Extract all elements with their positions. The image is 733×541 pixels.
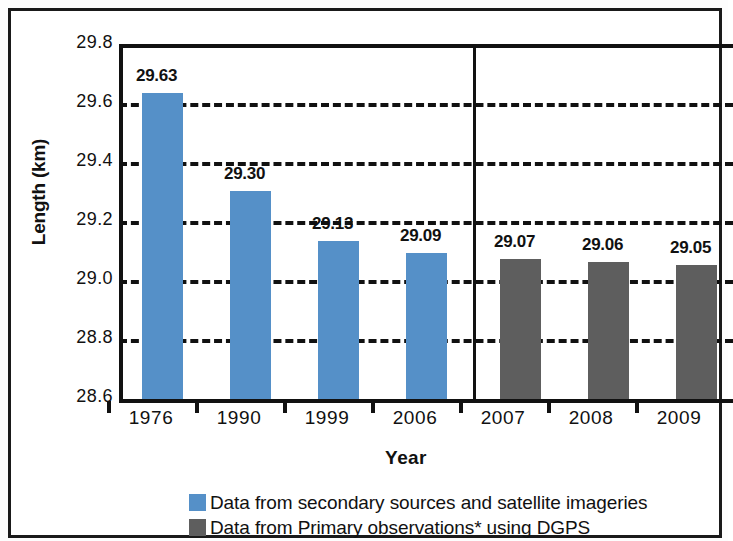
bar-value-2009: 29.05	[670, 238, 711, 258]
bar-value-1990: 29.30	[224, 164, 265, 184]
y-tick-label-29-8: 29.8	[76, 32, 113, 53]
bar-1976[interactable]	[142, 93, 183, 399]
x-tick-label-2008: 2008	[547, 407, 635, 429]
bar-value-1999: 29.13	[312, 214, 353, 234]
x-tick-label-1999: 1999	[283, 407, 371, 429]
bar-2009[interactable]	[676, 265, 717, 399]
x-tick-label-2009: 2009	[635, 407, 723, 429]
legend-item-secondary[interactable]: Data from secondary sources and satellit…	[189, 490, 647, 515]
chart-legend: Data from secondary sources and satellit…	[189, 490, 647, 540]
x-tick-label-1976: 1976	[107, 407, 195, 429]
bar-1999[interactable]	[318, 241, 359, 399]
bar-1990[interactable]	[230, 191, 271, 399]
group-divider-line	[473, 44, 476, 403]
bar-2007[interactable]	[500, 259, 541, 399]
bar-2008[interactable]	[588, 262, 629, 399]
x-tick-label-2007: 2007	[459, 407, 547, 429]
y-axis-line	[119, 44, 123, 401]
bar-value-2007: 29.07	[494, 232, 535, 252]
gridline-29-2	[119, 221, 733, 225]
bar-2006[interactable]	[406, 253, 447, 399]
figure-border: Length (km) 29.8 29.6 29.4 29.2 29.0 28.…	[8, 8, 722, 538]
legend-swatch-gray-icon	[189, 519, 206, 536]
gridline-29-4	[119, 162, 733, 166]
gridline-29-6	[119, 103, 733, 107]
y-tick-label-29-0: 29.0	[76, 268, 113, 289]
y-tick-label-29-4: 29.4	[76, 150, 113, 171]
y-tick-label-28-8: 28.8	[76, 327, 113, 348]
x-tick-label-1990: 1990	[195, 407, 283, 429]
bar-value-2006: 29.09	[400, 226, 441, 246]
legend-item-primary[interactable]: Data from Primary observations* using DG…	[189, 515, 647, 540]
y-tick-label-29-6: 29.6	[76, 91, 113, 112]
y-axis-ticks: 29.8 29.6 29.4 29.2 29.0 28.8 28.6	[39, 44, 113, 401]
x-axis-line	[119, 399, 733, 403]
bar-value-2008: 29.06	[582, 235, 623, 255]
y-tick-label-29-2: 29.2	[76, 209, 113, 230]
bar-value-1976: 29.63	[136, 66, 177, 86]
x-axis-title: Year	[311, 447, 501, 469]
legend-label-secondary: Data from secondary sources and satellit…	[210, 492, 647, 514]
x-tick-label-2006: 2006	[371, 407, 459, 429]
gridline-29-8	[119, 44, 733, 48]
legend-label-primary: Data from Primary observations* using DG…	[210, 517, 590, 539]
plot-area: 29.63 29.30 29.13 29.09 29.07 29.06 29.0…	[119, 44, 733, 401]
legend-swatch-blue-icon	[189, 494, 206, 511]
